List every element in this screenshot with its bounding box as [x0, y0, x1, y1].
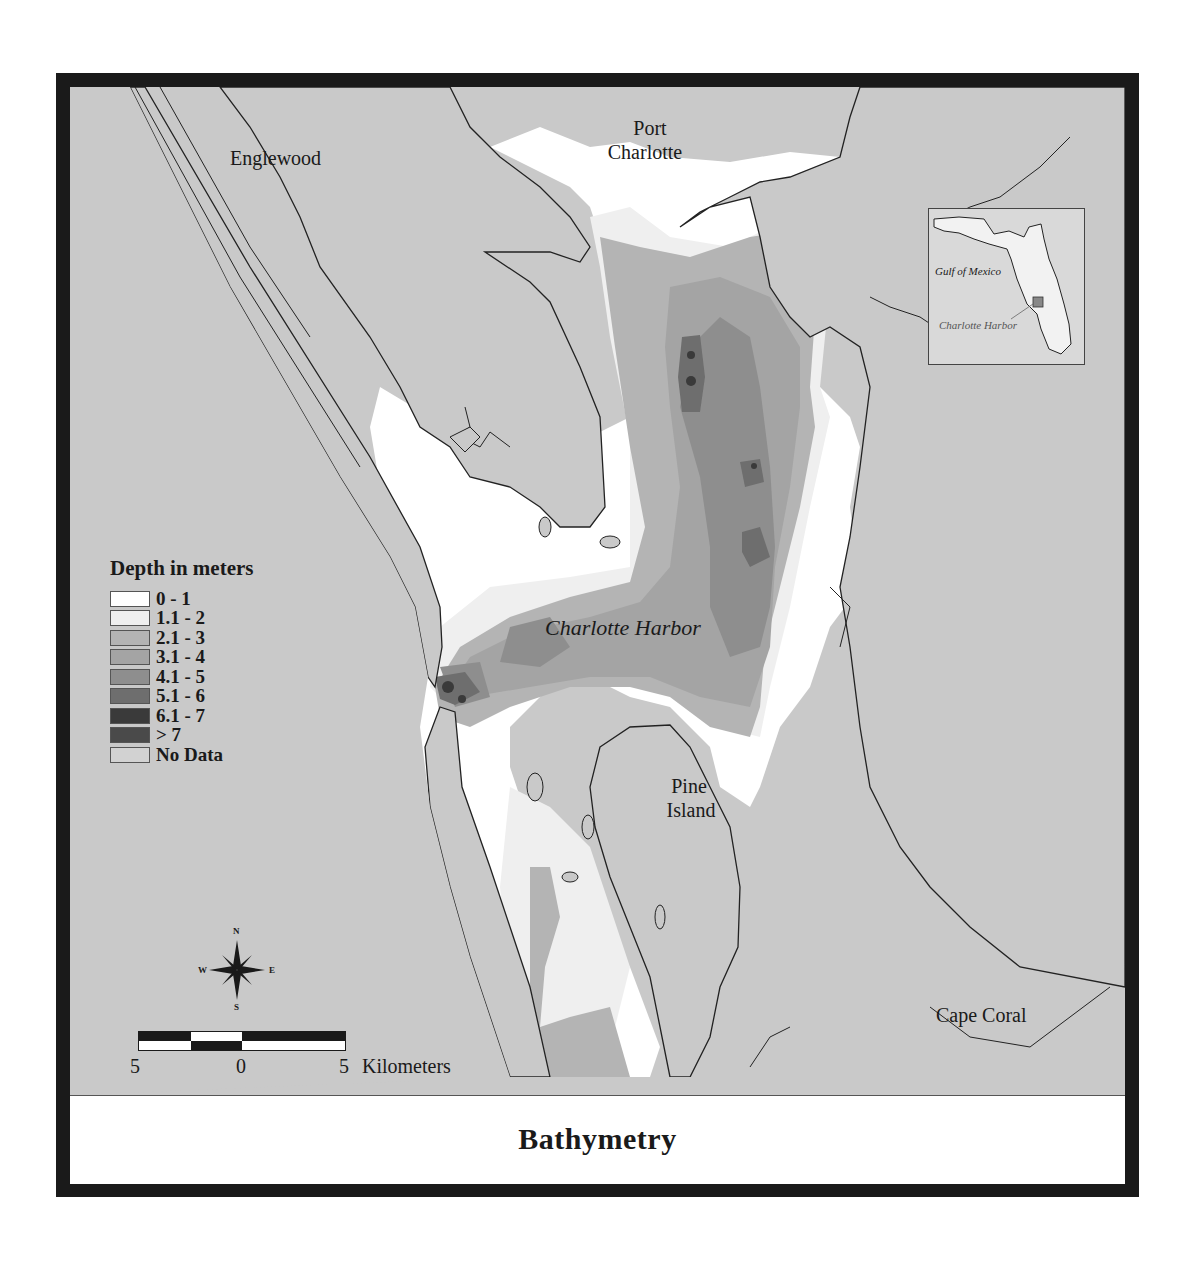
legend-label: 3.1 - 4: [156, 648, 205, 666]
legend-swatch: [110, 591, 150, 607]
legend-label: No Data: [156, 746, 223, 764]
legend-item: 1.1 - 2: [110, 609, 253, 629]
scale-bar: [138, 1031, 346, 1051]
compass-s: S: [234, 1002, 239, 1012]
compass-rose-icon: [202, 930, 272, 1010]
florida-outline-icon: [929, 209, 1084, 364]
legend-item: 3.1 - 4: [110, 648, 253, 668]
compass-w: W: [198, 965, 207, 975]
legend-label: 2.1 - 3: [156, 629, 205, 647]
legend-swatch: [110, 727, 150, 743]
figure-title: Bathymetry: [70, 1122, 1125, 1156]
label-englewood: Englewood: [230, 147, 321, 169]
scale-label-right: 5: [339, 1055, 349, 1078]
legend: Depth in meters 0 - 1 1.1 - 2 2.1 - 3 3.…: [110, 556, 253, 765]
label-port-charlotte-1: Port: [620, 117, 680, 139]
scale-label-left: 5: [130, 1055, 140, 1078]
scale-unit-label: Kilometers: [362, 1055, 451, 1078]
florida-inset-map: Gulf of Mexico Charlotte Harbor: [928, 208, 1085, 365]
compass-e: E: [269, 965, 275, 975]
legend-label: > 7: [156, 726, 181, 744]
legend-item: 6.1 - 7: [110, 706, 253, 726]
title-panel: Bathymetry: [70, 1095, 1125, 1184]
inset-label-harbor: Charlotte Harbor: [939, 319, 1017, 331]
legend-item: 4.1 - 5: [110, 667, 253, 687]
inset-label-gulf: Gulf of Mexico: [935, 265, 1001, 277]
legend-swatch: [110, 630, 150, 646]
legend-swatch: [110, 649, 150, 665]
compass-n: N: [233, 926, 240, 936]
label-charlotte-harbor: Charlotte Harbor: [545, 617, 701, 639]
legend-label: 4.1 - 5: [156, 668, 205, 686]
label-cape-coral: Cape Coral: [936, 1004, 1027, 1026]
legend-label: 1.1 - 2: [156, 609, 205, 627]
legend-item: > 7: [110, 726, 253, 746]
legend-swatch: [110, 747, 150, 763]
legend-title: Depth in meters: [110, 556, 253, 581]
legend-item: 5.1 - 6: [110, 687, 253, 707]
legend-label: 5.1 - 6: [156, 687, 205, 705]
legend-item: 0 - 1: [110, 589, 253, 609]
label-pine-island-2: Island: [656, 799, 726, 821]
compass-rose: N S W E: [202, 930, 272, 1010]
legend-label: 6.1 - 7: [156, 707, 205, 725]
legend-label: 0 - 1: [156, 590, 191, 608]
label-port-charlotte-2: Charlotte: [595, 141, 695, 163]
legend-swatch: [110, 688, 150, 704]
label-pine-island-1: Pine: [664, 775, 714, 797]
legend-swatch: [110, 708, 150, 724]
scale-label-center: 0: [236, 1055, 246, 1078]
charlotte-harbor-marker: [1033, 297, 1043, 307]
legend-swatch: [110, 610, 150, 626]
legend-item: No Data: [110, 745, 253, 765]
legend-swatch: [110, 669, 150, 685]
legend-item: 2.1 - 3: [110, 628, 253, 648]
